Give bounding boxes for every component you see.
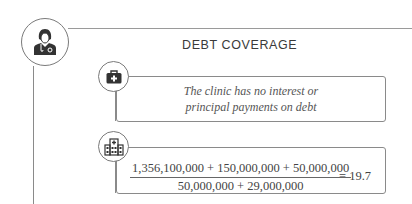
info-text-line1: The clinic has no interest or — [117, 83, 385, 99]
doctor-icon — [32, 28, 58, 56]
briefcase-medical-icon — [106, 70, 122, 84]
hospital-badge — [98, 131, 129, 162]
top-connector-line — [68, 28, 412, 29]
info-box-no-debt: The clinic has no interest or principal … — [116, 76, 386, 122]
debt-coverage-formula: 1,356,100,000 + 150,000,000 + 50,000,000… — [130, 161, 351, 194]
formula-denominator: 50,000,000 + 29,000,000 — [130, 178, 351, 194]
formula-result: = 19.7 — [339, 169, 371, 184]
briefcase-badge — [98, 61, 129, 92]
main-vertical-line — [33, 66, 34, 204]
section-title: DEBT COVERAGE — [182, 38, 297, 52]
doctor-avatar — [21, 18, 69, 66]
hospital-icon — [104, 138, 124, 156]
formula-numerator: 1,356,100,000 + 150,000,000 + 50,000,000 — [130, 161, 351, 178]
info-text-line2: principal payments on debt — [117, 99, 385, 115]
